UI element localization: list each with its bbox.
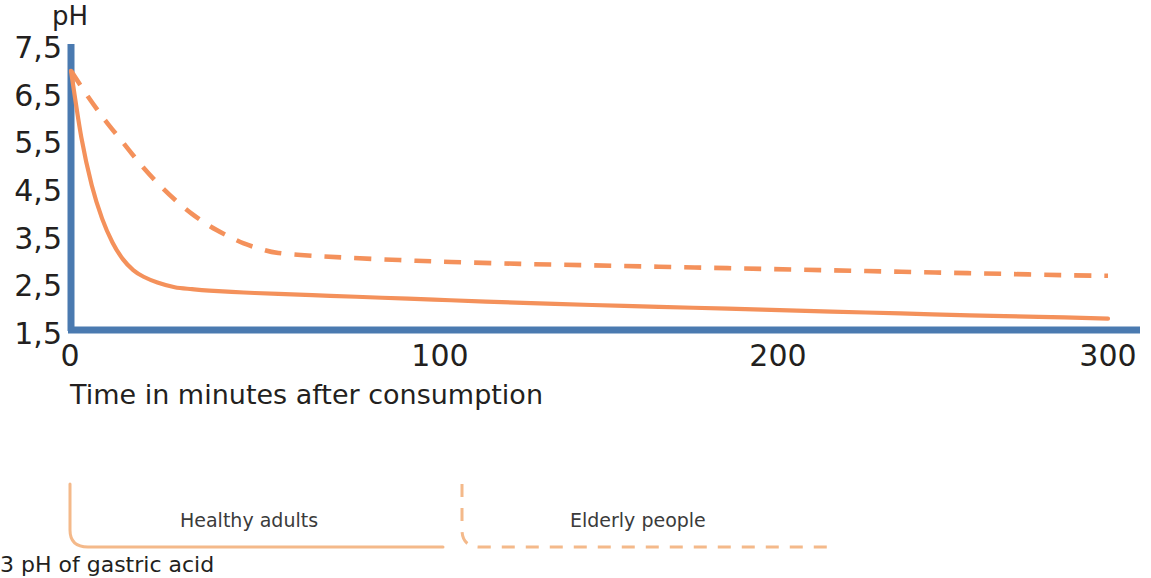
series-line-elderly-people (71, 71, 1108, 276)
legend-item-elderly-people: Elderly people (570, 511, 706, 530)
y-tick-label-7-5: 7,5 (0, 33, 62, 63)
series-line-healthy-adults (71, 71, 1108, 319)
y-tick-label-6-5: 6,5 (0, 81, 62, 111)
y-tick-label-2-5: 2,5 (0, 271, 62, 301)
y-tick-label-5-5: 5,5 (0, 128, 62, 158)
x-tick-label-300: 300 (1048, 341, 1151, 371)
y-tick-label-4-5: 4,5 (0, 176, 62, 206)
x-axis-title: Time in minutes after consumption (70, 381, 543, 408)
y-axis-title: pH (52, 3, 88, 29)
y-tick-label-3-5: 3,5 (0, 224, 62, 254)
figure-caption: 3 pH of gastric acid (0, 552, 214, 578)
x-tick-label-100: 100 (380, 341, 500, 371)
x-tick-label-0: 0 (10, 341, 130, 371)
legend-item-healthy-adults: Healthy adults (180, 511, 318, 530)
x-tick-label-200: 200 (718, 341, 838, 371)
